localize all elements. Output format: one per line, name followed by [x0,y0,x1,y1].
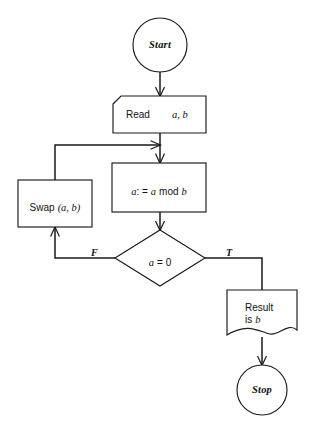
node-decision-label: a= 0 [126,252,194,271]
node-decision-rest: = 0 [157,257,171,268]
node-mod-label: a: =amodb [112,181,206,200]
node-swap-label: Swap(a, b) [18,197,92,216]
edge-label-true: T [226,247,232,259]
edge-decision-true-to-result [205,258,262,290]
node-start-label: Start [133,39,187,51]
node-read-label-vars: a, b [172,109,188,120]
node-result-line2-var: b [255,314,260,325]
node-swap-label-args: (a, b) [58,202,81,213]
node-result-label: Resultisb [245,302,273,326]
node-mod-var2: a [151,186,156,197]
node-stop-label: Stop [235,384,289,396]
edge-label-false: F [91,247,98,259]
node-result-line2-prefix: is [245,314,252,325]
edge-result-to-stop [258,337,267,366]
edge-decision-false-to-swap [51,227,115,258]
node-read-label: Reada, b [126,109,188,121]
node-result-line2: isb [245,314,273,326]
node-mod-modword: mod [159,186,178,197]
node-swap-label-main: Swap [30,202,55,213]
edge-read-to-mod [156,133,165,164]
node-decision-var: a [149,257,154,268]
node-mod-op: : = [136,186,147,197]
edge-mod-to-decision [156,212,165,231]
node-result-line1: Result [245,302,273,314]
edge-start-to-read [156,72,165,97]
node-mod-var3: b [182,186,187,197]
flowchart-canvas: Start Reada, b a: =amodb Swap(a, b) a= 0… [0,0,316,430]
node-read-label-main: Read [126,109,150,120]
